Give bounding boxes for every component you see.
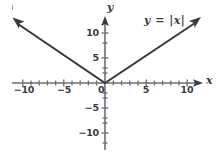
y-tick-label-neg5: −5 — [85, 103, 99, 113]
y-tick-label-5: 5 — [93, 53, 99, 63]
y-tick-label-neg10: −10 — [78, 128, 99, 138]
x-tick-label-10: 10 — [181, 85, 194, 95]
x-tick-label-neg5: −5 — [57, 85, 71, 95]
x-tick-label-neg10: −10 — [14, 85, 35, 95]
y-tick-label-10: 10 — [86, 28, 99, 38]
y-axis-label: y — [107, 2, 113, 13]
equation-label: y = |x| — [144, 15, 185, 26]
origin-label: 0 — [98, 85, 104, 95]
x-axis-label: x — [206, 75, 213, 86]
graph-figure: x y 0 −10 −5 5 10 10 5 −5 −10 y = |x| — [0, 0, 217, 152]
x-tick-label-5: 5 — [143, 85, 149, 95]
